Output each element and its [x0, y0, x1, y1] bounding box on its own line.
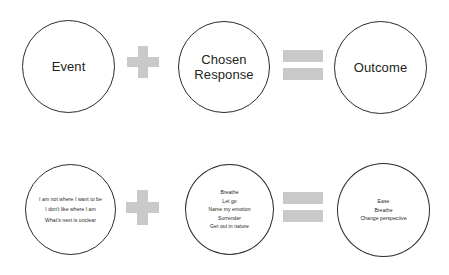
circle-outcome-examples-content: Ease Breathe Change perspective [344, 197, 422, 222]
event-example-item: I don't like where I am [32, 205, 109, 213]
outcome-example-item: Change perspective [344, 214, 422, 222]
circle-event-examples-content: I am not where I want to be I don't like… [32, 195, 109, 225]
equals-bottom-bar [283, 68, 323, 80]
outcome-example-item: Breathe [344, 206, 422, 214]
circle-chosen-response: Chosen Response [178, 21, 270, 113]
label-outcome: Outcome [341, 60, 419, 75]
circle-event: Event [22, 20, 115, 113]
circle-outcome: Outcome [334, 21, 427, 114]
circle-chosen-response-content: Chosen Response [185, 52, 262, 82]
response-example-item: Breathe [192, 188, 267, 196]
equals-operator-bottom [283, 192, 323, 222]
event-example-item: What's next is unclear [32, 216, 109, 224]
diagram-canvas: Event Chosen Response Outcome I am not w… [0, 0, 449, 275]
plus-vertical-bar [137, 190, 148, 225]
circle-outcome-content: Outcome [341, 60, 419, 75]
circle-outcome-examples: Ease Breathe Change perspective [337, 163, 430, 257]
response-example-item: Get out in nature [192, 222, 267, 230]
plus-vertical-bar [138, 46, 148, 78]
label-event: Event [29, 59, 107, 74]
equals-top-bar [283, 50, 323, 62]
response-example-item: Surrender [192, 214, 267, 222]
equals-operator-top [283, 50, 323, 80]
equals-top-bar [283, 192, 323, 204]
response-example-item: Name my emotion [192, 205, 267, 213]
response-example-list: Breathe Let go Name my emotion Surrender… [192, 188, 267, 230]
outcome-example-list: Ease Breathe Change perspective [344, 197, 422, 222]
event-example-list: I am not where I want to be I don't like… [32, 195, 109, 225]
circle-event-examples: I am not where I want to be I don't like… [25, 164, 116, 255]
circle-response-examples: Breathe Let go Name my emotion Surrender… [185, 164, 274, 255]
equals-bottom-bar [283, 210, 323, 222]
plus-operator-top [127, 46, 159, 78]
outcome-example-item: Ease [344, 197, 422, 205]
plus-operator-bottom [126, 190, 159, 225]
event-example-item: I am not where I want to be [32, 195, 109, 203]
label-chosen-response-line1: Chosen [185, 52, 262, 67]
label-chosen-response-line2: Response [185, 67, 262, 82]
response-example-item: Let go [192, 197, 267, 205]
circle-event-content: Event [29, 59, 107, 74]
circle-response-examples-content: Breathe Let go Name my emotion Surrender… [192, 188, 267, 230]
